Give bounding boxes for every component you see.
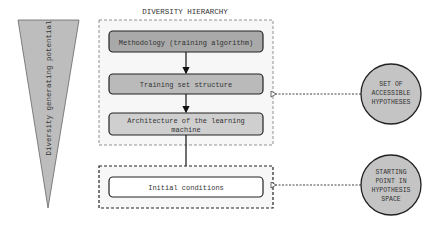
svg-text:ACCESSIBLE: ACCESSIBLE — [371, 90, 410, 97]
starting-point-circle: STARTING POINT IN HYPOTHESIS SPACE — [361, 155, 421, 215]
architecture-box: Architecture of the learning machine — [109, 113, 263, 135]
svg-text:HYPOTHESES: HYPOTHESES — [371, 99, 410, 106]
diversity-diagram: Diversity generating potential DIVERSITY… — [0, 0, 432, 228]
training-set-label: Training set structure — [140, 81, 232, 89]
diagram-title: DIVERSITY HIERARCHY — [142, 8, 228, 16]
architecture-label-line1: Architecture of the learning — [127, 117, 245, 125]
svg-text:STARTING: STARTING — [375, 169, 406, 176]
triangle-label: Diversity generating potential — [45, 20, 53, 156]
methodology-box: Methodology (training algorithm) — [109, 31, 263, 52]
initial-conditions-box: Initial conditions — [109, 177, 263, 197]
training-set-box: Training set structure — [109, 74, 263, 94]
initial-conditions-label: Initial conditions — [148, 184, 224, 192]
architecture-label-line2: machine — [171, 126, 200, 134]
svg-text:POINT IN: POINT IN — [375, 178, 406, 185]
diversity-potential-triangle: Diversity generating potential — [18, 20, 79, 208]
accessible-hypotheses-circle: SET OF ACCESSIBLE HYPOTHESES — [361, 64, 421, 124]
svg-text:SET OF: SET OF — [379, 81, 403, 88]
svg-text:HYPOTHESIS: HYPOTHESIS — [371, 187, 410, 194]
methodology-label: Methodology (training algorithm) — [119, 39, 253, 47]
svg-text:SPACE: SPACE — [381, 196, 401, 203]
